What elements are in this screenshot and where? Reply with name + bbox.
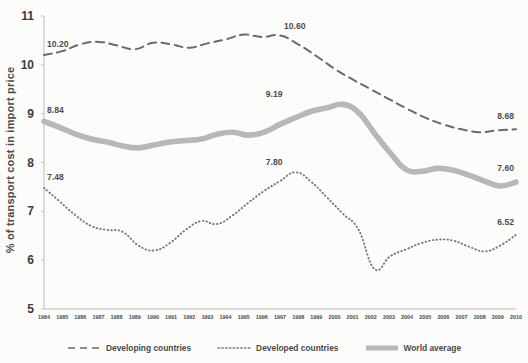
x-tick-labels: 1984198519861987198819891990199119921993… bbox=[38, 314, 522, 320]
legend-swatch-dashed bbox=[67, 344, 101, 352]
x-tick-label: 1986 bbox=[74, 314, 86, 320]
legend-swatch-solid bbox=[365, 344, 399, 352]
x-tick-label: 1990 bbox=[147, 314, 159, 320]
x-tick-label: 1994 bbox=[220, 314, 232, 320]
y-tick-label: 6 bbox=[27, 253, 34, 267]
x-tick-label: 2004 bbox=[401, 314, 413, 320]
legend-item-world-average[interactable]: World average bbox=[365, 343, 462, 353]
x-tick-label: 1996 bbox=[256, 314, 268, 320]
x-tick-label: 1998 bbox=[292, 314, 304, 320]
x-tick-label: 1985 bbox=[56, 314, 68, 320]
x-tick-label: 2001 bbox=[347, 314, 359, 320]
chart-figure: % of transport cost in import price 1110… bbox=[0, 0, 528, 363]
x-tick-label: 1997 bbox=[274, 314, 286, 320]
y-tick-label: 7 bbox=[27, 204, 34, 218]
legend-swatch-dotted bbox=[217, 344, 251, 352]
data-point-label: 9.19 bbox=[266, 89, 283, 99]
x-tick-label: 1999 bbox=[310, 314, 322, 320]
y-tick-label: 10 bbox=[21, 58, 35, 72]
x-tick-label: 1987 bbox=[92, 314, 104, 320]
x-tick-label: 1989 bbox=[129, 314, 141, 320]
legend-label-world-average: World average bbox=[404, 343, 462, 353]
data-point-label: 7.60 bbox=[497, 163, 514, 173]
x-tick-label: 2000 bbox=[328, 314, 340, 320]
x-tick-label: 2009 bbox=[492, 314, 504, 320]
x-tick-label: 2006 bbox=[437, 314, 449, 320]
data-point-label: 10.20 bbox=[47, 39, 69, 49]
x-tick-label: 2005 bbox=[419, 314, 431, 320]
series-line-developing-countries bbox=[44, 34, 516, 132]
data-point-label: 10.60 bbox=[284, 21, 306, 31]
chart-legend: Developing countries Developed countries… bbox=[0, 337, 528, 359]
series-line-developed-countries bbox=[44, 172, 516, 270]
plot-figure: % of transport cost in import price 1110… bbox=[0, 0, 528, 363]
x-tick-label: 2010 bbox=[510, 314, 522, 320]
legend-label-developed: Developed countries bbox=[256, 343, 338, 353]
legend-item-developing[interactable]: Developing countries bbox=[67, 343, 191, 353]
x-tick-label: 1993 bbox=[201, 314, 213, 320]
x-tick-label: 2003 bbox=[383, 314, 395, 320]
x-tick-label: 1992 bbox=[183, 314, 195, 320]
data-point-label: 8.84 bbox=[47, 105, 64, 115]
y-tick-labels: 111098765 bbox=[21, 9, 44, 316]
data-point-label: 7.48 bbox=[47, 172, 64, 182]
x-tick-label: 1991 bbox=[165, 314, 177, 320]
data-point-label: 6.52 bbox=[497, 217, 514, 227]
y-tick-label: 9 bbox=[27, 107, 34, 121]
legend-label-developing: Developing countries bbox=[106, 343, 191, 353]
series-line-world-average bbox=[44, 104, 516, 186]
x-tick-label: 1984 bbox=[38, 314, 50, 320]
x-tick-label: 2007 bbox=[456, 314, 468, 320]
y-tick-label: 11 bbox=[21, 9, 34, 23]
chart-canvas: 111098765 198419851986198719881989199019… bbox=[0, 0, 528, 363]
y-tick-label: 8 bbox=[27, 156, 34, 170]
x-tick-label: 2002 bbox=[365, 314, 377, 320]
x-tick-label: 1995 bbox=[238, 314, 250, 320]
data-point-label: 8.68 bbox=[497, 111, 514, 121]
x-tick-label: 2008 bbox=[474, 314, 486, 320]
y-tick-label: 5 bbox=[27, 302, 34, 316]
legend-item-developed[interactable]: Developed countries bbox=[217, 343, 338, 353]
series-layer bbox=[44, 34, 516, 270]
x-tick-label: 1988 bbox=[111, 314, 123, 320]
data-point-label: 7.80 bbox=[266, 157, 283, 167]
